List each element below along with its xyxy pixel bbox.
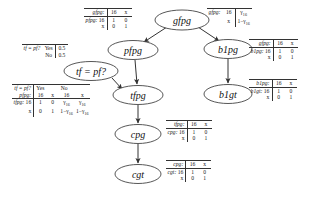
node-cgt[interactable]: cgt (115, 165, 161, 184)
table-row: x 0 1 1−γ16 1−γ16 (12, 108, 90, 117)
tf-equals-pf-prior-table: tf = pf? Yes 0.5 No 0.5 (22, 44, 68, 58)
tfpg-cpt-row-1-cell-0: 0 (34, 108, 47, 117)
pfpg-cpt-parent-label: gfpg: (84, 9, 107, 16)
cpg-cpt-parent-col-0: 16 (187, 121, 200, 128)
table-row: cpg: 16 1 0 (166, 128, 212, 135)
node-tf-equals-pf[interactable]: tf = pf? (64, 62, 118, 81)
cgt-cpt-row-1-cell-1: 1 (199, 175, 211, 182)
tfpg-cpt-parent2-col-1: x (47, 92, 59, 99)
tfpg-cpt-row-1-cell-1: 1 (47, 108, 59, 117)
edge-tfpq-to-tfpg (112, 78, 122, 89)
b1pg-cpt-parent-label: gfpg: (249, 40, 273, 47)
node-b1pg-label: b1pg (218, 44, 238, 55)
pfpg-cpt-row-1-cell-1: 1 (120, 23, 132, 30)
tfpq-prior-value-0: 0.5 (55, 45, 68, 52)
tfpg-cpt-parent2-col-0: 16 (34, 92, 47, 99)
tfpg-cpt-row-1-label: x (12, 108, 34, 117)
edge-pfpg-to-tfpg (135, 60, 137, 84)
pfpg-cpt-table: gfpg: 16 x pfpg: 16 1 0 x 0 1 (84, 8, 132, 30)
tfpg-cpt-parent1-label: tf = pf? (12, 85, 34, 92)
table-row: x 0 1 (166, 175, 211, 182)
table-row: b1gt: 16 1 0 (249, 87, 297, 94)
cgt-cpt-row-1-cell-0: 0 (186, 175, 199, 182)
cgt-cpt-row-0-cell-0: 1 (186, 168, 199, 175)
tfpg-cpt-row-0-cell-0: 1 (34, 99, 47, 108)
tfpg-cpt-parent1-col-1: No (59, 85, 90, 92)
b1pg-cpt-table: gfpg: 16 x b1pg: 16 1 0 x 0 1 (249, 39, 298, 61)
b1pg-cpt-row-0-cell-1: 0 (286, 47, 298, 54)
cpg-cpt-row-1-label: x (166, 135, 187, 142)
tfpg-cpt-parent2-col-2: 16 (59, 92, 75, 99)
edge-gfpg-to-pfpg (144, 27, 167, 42)
tfpg-cpt-parent2-col-3: x (74, 92, 90, 99)
cpg-cpt-parent-col-1: x (200, 121, 212, 128)
gfpg-prior-table: gfpg: 16 γ16 x 1−γ16 (207, 8, 252, 27)
node-pfpg[interactable]: pfpg (108, 41, 158, 60)
node-tfpg[interactable]: tfpg (113, 86, 163, 105)
gfpg-prior-state-x: x (223, 18, 236, 27)
cgt-cpt-parent-label: cpg: (166, 161, 186, 168)
tfpg-cpt-parent1-col-0: Yes (34, 85, 59, 92)
figure-canvas: gfpg pfpg b1pg tf = pf? tfpg b1gt cpg c (0, 0, 321, 198)
tfpg-cpt-row-1-cell-2: 1−γ16 (59, 108, 75, 117)
b1gt-cpt-row-1-cell-0: 0 (272, 94, 285, 101)
b1gt-cpt-table: b1pg: 16 x b1gt: 16 1 0 x 0 1 (249, 79, 297, 101)
cgt-cpt-row-1-label: x (166, 175, 186, 182)
tfpg-cpt-row-0-cell-1: 0 (47, 99, 59, 108)
b1gt-cpt-row-0-cell-1: 0 (285, 87, 297, 94)
b1pg-cpt-row-0-label: b1pg: 16 (249, 47, 273, 54)
pfpg-cpt-parent-col-1: x (120, 9, 132, 16)
b1gt-cpt-parent-col-1: x (285, 80, 297, 87)
tfpg-cpt-parent2-label: pfpg: (12, 92, 34, 99)
b1gt-cpt-parent-col-0: 16 (272, 80, 285, 87)
gfpg-prior-value-1: 1−γ16 (235, 18, 251, 27)
pfpg-cpt-row-0-cell-1: 0 (120, 16, 132, 23)
tfpg-cpt-row-0-label: tfpg: 16 (12, 99, 34, 108)
cgt-cpt-row-0-cell-1: 0 (199, 168, 211, 175)
tfpg-cpt-row-0-cell-3: γ16 (74, 99, 90, 108)
b1pg-cpt-row-1-label: x (249, 54, 273, 61)
cpg-cpt-row-0-cell-1: 0 (200, 128, 212, 135)
gfpg-prior-state-16: 16 (223, 9, 236, 18)
cgt-cpt-parent-col-1: x (199, 161, 211, 168)
node-gfpg-label: gfpg (173, 15, 191, 26)
tfpq-prior-state-0: Yes (43, 45, 56, 52)
table-row: x 0 1 (84, 23, 132, 30)
tfpq-prior-header-label: tf = pf? (22, 45, 43, 52)
table-row: x 0 1 (249, 94, 297, 101)
tfpq-prior-state-1: No (43, 52, 56, 59)
tfpg-cpt-row-1-cell-3: 1−γ16 (74, 108, 90, 117)
node-cgt-label: cgt (132, 169, 144, 180)
node-cpg-label: cpg (131, 129, 145, 140)
b1pg-cpt-row-1-cell-1: 1 (286, 54, 298, 61)
b1pg-cpt-row-0-cell-0: 1 (273, 47, 286, 54)
node-tfpg-label: tfpg (130, 90, 146, 101)
b1pg-cpt-parent-col-0: 16 (273, 40, 286, 47)
table-row: pfpg: 16 1 0 (84, 16, 132, 23)
cpg-cpt-row-1-cell-1: 1 (200, 135, 212, 142)
pfpg-cpt-row-0-cell-0: 1 (107, 16, 120, 23)
cpg-cpt-row-1-cell-0: 0 (187, 135, 200, 142)
pfpg-cpt-parent-col-0: 16 (107, 9, 120, 16)
node-b1gt[interactable]: b1gt (204, 85, 252, 104)
gfpg-prior-value-0: γ16 (235, 9, 251, 18)
table-row: b1pg: 16 1 0 (249, 47, 298, 54)
node-cpg[interactable]: cpg (115, 125, 161, 144)
b1gt-cpt-parent-label: b1pg: (249, 80, 272, 87)
gfpg-prior-header-label: gfpg: (207, 9, 223, 18)
cpg-cpt-row-0-label: cpg: 16 (166, 128, 187, 135)
node-tf-equals-pf-label: tf = pf? (76, 66, 106, 77)
table-row: cgt: 16 1 0 (166, 168, 211, 175)
cpg-cpt-row-0-cell-0: 1 (187, 128, 200, 135)
node-b1gt-label: b1gt (219, 89, 237, 100)
table-row: tfpg: 16 1 0 γ16 γ16 (12, 99, 90, 108)
tfpg-cpt-row-0-cell-2: γ16 (59, 99, 75, 108)
pfpg-cpt-row-0-label: pfpg: 16 (84, 16, 107, 23)
cgt-cpt-parent-col-0: 16 (186, 161, 199, 168)
cpg-cpt-table: tfpg: 16 x cpg: 16 1 0 x 0 1 (166, 120, 212, 142)
tfpg-cpt-table: tf = pf? Yes No pfpg: 16 x 16 x tfpg: 16… (12, 84, 90, 117)
b1pg-cpt-parent-col-1: x (286, 40, 298, 47)
table-row: x 0 1 (249, 54, 298, 61)
node-b1pg[interactable]: b1pg (204, 40, 252, 59)
node-gfpg[interactable]: gfpg (155, 10, 209, 30)
